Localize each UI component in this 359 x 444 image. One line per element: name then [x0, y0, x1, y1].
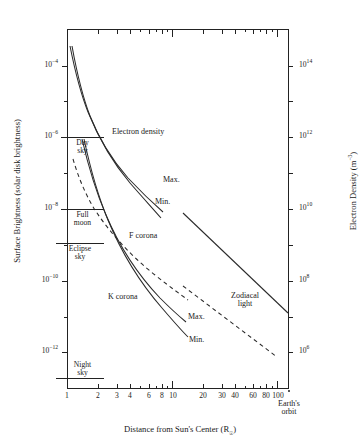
day-sky-line2: sky [61, 147, 104, 155]
figure-root: 10−4 10−6 10−8 10−10 10−12 1014 1012 101… [0, 0, 359, 444]
annotation-k-corona-min: Min. [189, 336, 204, 344]
reference-label-night-sky: Night sky [61, 361, 104, 376]
zodiacal-line2: light [220, 300, 270, 308]
eclipse-sky-line2: sky [56, 253, 104, 261]
earths-orbit-line2: orbit [268, 408, 310, 416]
annotation-electron-density: Electron density [112, 128, 164, 136]
full-moon-line2: moon [61, 219, 104, 227]
annotation-electron-density-min: Min. [155, 198, 170, 206]
reference-label-day-sky: Day sky [61, 139, 104, 154]
annotation-k-corona-max: Max. [188, 313, 205, 321]
annotation-electron-density-max: Max. [163, 176, 180, 184]
annotation-f-corona: F corona [129, 232, 157, 240]
annotation-earths-orbit: Earth's orbit [268, 400, 310, 417]
curves-layer [0, 0, 359, 444]
annotation-zodiacal-light: Zodiacal light [220, 292, 270, 309]
reference-label-full-moon: Full moon [61, 211, 104, 226]
reference-line-night-sky [56, 378, 104, 379]
night-sky-line2: sky [61, 369, 104, 377]
annotation-k-corona: K corona [108, 293, 138, 301]
reference-label-eclipse-sky: Eclipse sky [56, 245, 104, 260]
